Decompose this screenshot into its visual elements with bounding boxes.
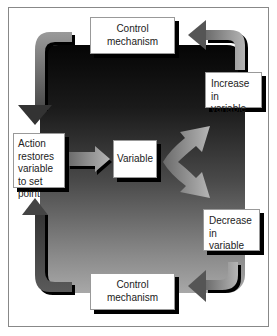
action-restores-box: Action restores variable to set point <box>13 133 65 188</box>
increase-in-variable-box: Increase in variable <box>205 72 262 108</box>
top-control-mechanism-box: Control mechanism <box>90 17 175 54</box>
arrow-bottom-left-icon <box>22 198 75 295</box>
arrow-top-right-icon <box>188 20 248 73</box>
arrow-fork-icon <box>163 126 210 198</box>
arrow-bottom-right-icon <box>188 262 241 302</box>
decrease-in-variable-box: Decrease in variable <box>203 209 260 251</box>
bottom-control-mechanism-box: Control mechanism <box>90 273 175 310</box>
arrow-top-left-icon <box>18 32 75 125</box>
arrow-action-to-variable-icon <box>68 146 112 175</box>
variable-box: Variable <box>113 140 157 178</box>
